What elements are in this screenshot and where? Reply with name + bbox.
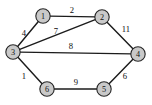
graph-node-label-4: 4 bbox=[136, 50, 140, 59]
graph-figure: 123456 247118196 bbox=[0, 0, 152, 105]
edge-weight-3-4: 8 bbox=[69, 41, 73, 51]
graph-edge-5-4 bbox=[109, 59, 134, 85]
edge-weight-2-4: 11 bbox=[122, 24, 130, 34]
edge-weight-5-4: 6 bbox=[123, 71, 128, 81]
edge-weight-1-2: 2 bbox=[70, 5, 74, 15]
graph-node-5[interactable]: 5 bbox=[97, 82, 111, 96]
edge-weight-3-2: 7 bbox=[54, 26, 59, 36]
graph-node-label-3: 3 bbox=[11, 48, 15, 57]
graph-node-label-1: 1 bbox=[41, 12, 45, 21]
graph-node-6[interactable]: 6 bbox=[40, 82, 54, 96]
graph-node-label-6: 6 bbox=[45, 85, 49, 94]
edge-weight-1-3: 4 bbox=[22, 28, 27, 38]
edge-weight-6-5: 9 bbox=[74, 77, 78, 87]
graph-node-3[interactable]: 3 bbox=[6, 45, 20, 59]
graph-node-1[interactable]: 1 bbox=[36, 9, 50, 23]
graph-node-label-5: 5 bbox=[102, 85, 106, 94]
edge-weight-3-6: 1 bbox=[22, 71, 26, 81]
graph-node-4[interactable]: 4 bbox=[131, 47, 145, 61]
graph-edge-3-4 bbox=[20, 52, 132, 54]
graph-node-label-2: 2 bbox=[100, 13, 104, 22]
graph-edge-1-2 bbox=[50, 16, 96, 17]
graph-canvas: 123456 247118196 bbox=[0, 0, 152, 105]
graph-node-2[interactable]: 2 bbox=[95, 10, 109, 24]
